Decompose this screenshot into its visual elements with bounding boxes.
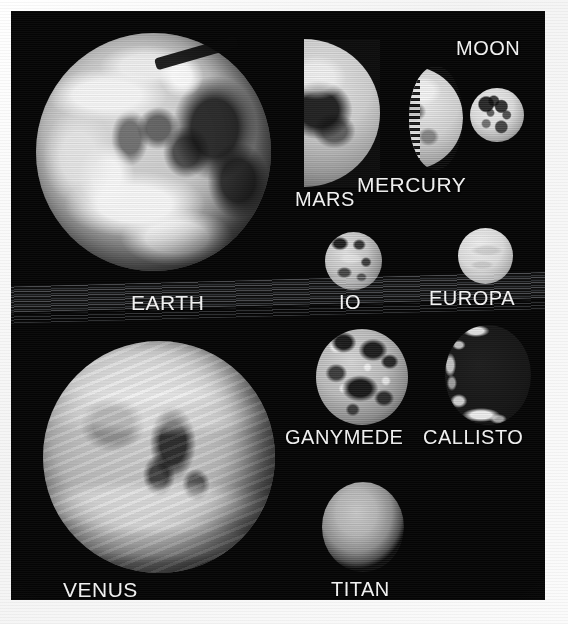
montage-canvas: EARTH MARS MERCURY MOON IO EUROPA (11, 11, 545, 600)
body-venus (43, 341, 275, 573)
body-europa (458, 228, 513, 284)
callisto-scan-texture (445, 325, 531, 425)
mars-scan-texture (304, 39, 380, 187)
body-io (325, 232, 382, 290)
mercury-scan-texture (409, 66, 463, 170)
label-callisto: CALLISTO (423, 427, 523, 447)
body-ganymede (316, 329, 408, 425)
label-earth: EARTH (131, 292, 204, 313)
body-titan (322, 482, 404, 572)
body-earth (36, 33, 271, 271)
moon-scan-texture (470, 88, 524, 142)
europa-scan-texture (458, 228, 513, 284)
ganymede-scan-texture (316, 329, 408, 425)
label-titan: TITAN (331, 579, 390, 599)
label-io: IO (339, 292, 361, 312)
label-moon: MOON (456, 38, 520, 58)
titan-scan-texture (322, 482, 404, 572)
label-mercury: MERCURY (357, 174, 466, 195)
body-moon (470, 88, 524, 142)
label-venus: VENUS (63, 579, 138, 600)
body-callisto (445, 325, 531, 425)
body-mars (304, 39, 380, 187)
label-mars: MARS (295, 189, 355, 209)
label-ganymede: GANYMEDE (285, 427, 403, 447)
label-europa: EUROPA (429, 288, 515, 308)
venus-scan-texture (43, 341, 275, 573)
body-mercury (409, 66, 463, 170)
earth-scan-texture (36, 33, 271, 271)
photo-plate-frame: EARTH MARS MERCURY MOON IO EUROPA (0, 0, 568, 624)
io-scan-texture (325, 232, 382, 290)
